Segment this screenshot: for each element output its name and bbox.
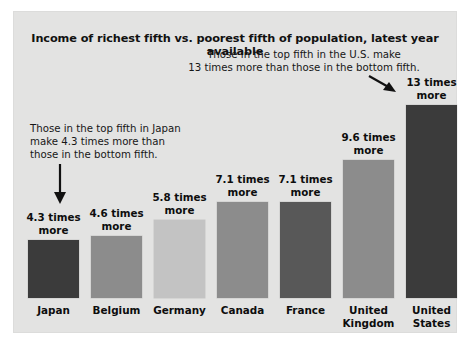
bar-label-france: France bbox=[270, 304, 341, 317]
bar-rect-belgium[interactable] bbox=[91, 236, 142, 298]
bar-column-canada[interactable]: 7.1 times more Canada bbox=[217, 202, 268, 298]
bar-value-united-kingdom: 9.6 times more bbox=[334, 131, 403, 156]
bar-column-united-states[interactable]: 13 times more United States bbox=[406, 105, 457, 298]
bar-value-germany: 5.8 times more bbox=[145, 191, 214, 216]
bar-rect-united-kingdom[interactable] bbox=[343, 160, 394, 298]
bar-column-united-kingdom[interactable]: 9.6 times more United Kingdom bbox=[343, 160, 394, 298]
bar-rect-canada[interactable] bbox=[217, 202, 268, 298]
bar-column-belgium[interactable]: 4.6 times more Belgium bbox=[91, 236, 142, 298]
bar-value-france: 7.1 times more bbox=[271, 173, 340, 198]
chart-panel: Income of richest fifth vs. poorest fift… bbox=[14, 12, 456, 332]
bar-value-japan: 4.3 times more bbox=[19, 211, 88, 236]
bar-column-germany[interactable]: 5.8 times more Germany bbox=[154, 220, 205, 298]
bar-label-belgium: Belgium bbox=[81, 304, 152, 317]
bar-column-france[interactable]: 7.1 times more France bbox=[280, 202, 331, 298]
bar-label-canada: Canada bbox=[207, 304, 278, 317]
chart-plot-area: 4.3 times more Japan 4.6 times more Belg… bbox=[14, 12, 456, 332]
bar-value-canada: 7.1 times more bbox=[208, 173, 277, 198]
bar-column-japan[interactable]: 4.3 times more Japan bbox=[28, 240, 79, 298]
bar-label-united-kingdom: United Kingdom bbox=[333, 304, 404, 329]
bar-label-germany: Germany bbox=[144, 304, 215, 317]
bar-value-belgium: 4.6 times more bbox=[82, 207, 151, 232]
bar-label-united-states: United States bbox=[396, 304, 467, 329]
bar-rect-france[interactable] bbox=[280, 202, 331, 298]
bar-rect-germany[interactable] bbox=[154, 220, 205, 298]
bar-rect-japan[interactable] bbox=[28, 240, 79, 298]
bar-value-united-states: 13 times more bbox=[397, 76, 466, 101]
chart-figure: Income of richest fifth vs. poorest fift… bbox=[0, 0, 469, 346]
bar-label-japan: Japan bbox=[18, 304, 89, 317]
bar-rect-united-states[interactable] bbox=[406, 105, 457, 298]
